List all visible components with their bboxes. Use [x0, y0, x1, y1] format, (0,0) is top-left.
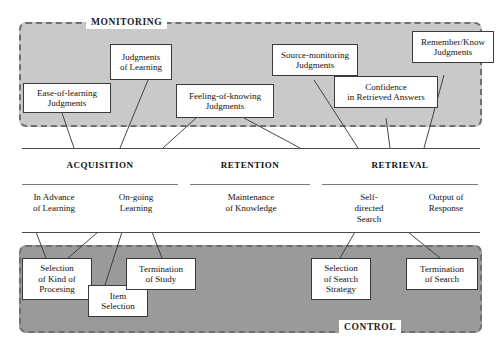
- monitoring-box-feeling-of-knowing-judgments[interactable]: Feeling-of-knowing Judgments: [176, 84, 274, 118]
- monitoring-box-ease-of-learning-judgments[interactable]: Ease-of-learning Judgments: [23, 83, 111, 113]
- timeline-rule-bottom: [22, 232, 480, 233]
- control-box-termination-of-search[interactable]: Termination of Search: [406, 258, 478, 290]
- control-panel-title: CONTROL: [339, 320, 401, 334]
- phase-label-retrieval: RETRIEVAL: [322, 160, 478, 170]
- phase-rule-retrieval: [322, 184, 478, 185]
- metamemory-diagram: MONITORING Ease-of-learning Judgments Ju…: [0, 0, 504, 347]
- phase-label-acquisition: ACQUISITION: [22, 160, 178, 170]
- monitoring-box-remember-know-judgments[interactable]: Remember/Know Judgments: [412, 31, 494, 63]
- control-box-selection-of-search-strategy[interactable]: Selection of Search Strategy: [311, 258, 371, 300]
- control-box-selection-of-kind-of-processing[interactable]: Selection of Kind of Procesing: [22, 258, 92, 300]
- stage-label-output-of-response: Output of Response: [412, 192, 480, 214]
- stage-label-maintenance-of-knowledge: Maintenance of Knowledge: [202, 192, 300, 214]
- monitoring-box-confidence-in-retrieved-answers[interactable]: Confidence in Retrieved Answers: [334, 76, 438, 108]
- phase-rule-acquisition: [22, 184, 178, 185]
- phase-rule-retention: [190, 184, 310, 185]
- stage-label-in-advance-of-learning: In Advance of Learning: [18, 192, 90, 214]
- timeline-rule-top: [22, 148, 480, 149]
- monitoring-box-source-monitoring-judgments[interactable]: Source-monitoring Judgments: [272, 44, 358, 76]
- stage-label-self-directed-search: Self- directed Search: [340, 192, 398, 225]
- monitoring-box-judgments-of-learning[interactable]: Judgments of Learning: [110, 44, 172, 80]
- control-box-termination-of-study[interactable]: Termination of Study: [126, 258, 196, 290]
- monitoring-panel-title: MONITORING: [86, 15, 167, 29]
- stage-label-on-going-learning: On-going Learning: [100, 192, 172, 214]
- phase-label-retention: RETENTION: [190, 160, 310, 170]
